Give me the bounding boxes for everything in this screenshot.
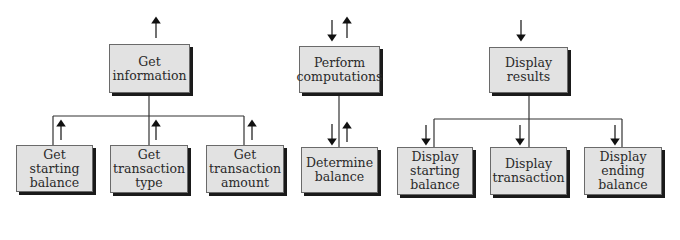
module-display-starting-balance: Display starting balance (397, 147, 473, 195)
module-get-transaction-amount: Get transaction amount (206, 145, 284, 193)
module-get-transaction-type: Get transaction type (110, 145, 188, 193)
module-display-ending-balance: Display ending balance (584, 147, 662, 195)
module-get-information: Get information (109, 44, 190, 93)
module-determine-balance: Determine balance (301, 147, 378, 193)
module-display-results: Display results (489, 47, 568, 93)
module-perform-computations: Perform computations (299, 46, 380, 93)
module-get-starting-balance: Get starting balance (16, 145, 93, 192)
module-display-transaction: Display transaction (490, 147, 567, 195)
